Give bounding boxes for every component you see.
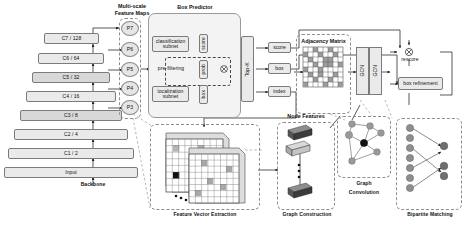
guide-lines bbox=[0, 0, 471, 235]
architecture-diagram: C7 / 128 C6 / 64 C5 / 32 C4 / 16 C3 / 8 … bbox=[0, 0, 471, 235]
